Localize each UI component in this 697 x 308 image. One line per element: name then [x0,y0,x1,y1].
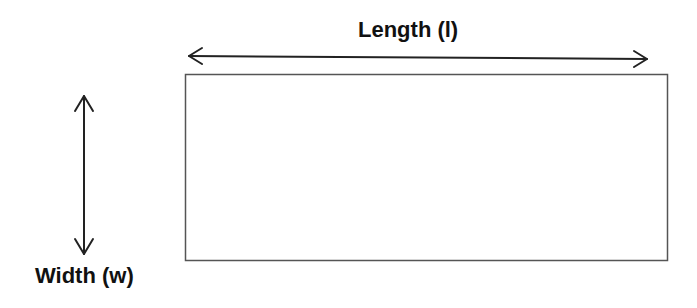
length-arrow-icon [189,48,647,67]
width-arrow-icon [75,96,93,254]
width-label: Width (w) [35,265,134,287]
length-label: Length (l) [358,19,458,41]
rectangle-shape [186,75,668,261]
rectangle-diagram [0,0,697,308]
